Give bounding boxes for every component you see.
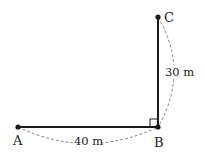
point-b — [155, 124, 160, 129]
label-a: A — [12, 133, 23, 148]
diagram-canvas: A B C 40 m 30 m — [0, 0, 205, 162]
point-c — [155, 14, 160, 19]
length-label-bc: 30 m — [165, 65, 194, 79]
point-a — [15, 124, 20, 129]
label-b: B — [154, 135, 164, 150]
length-label-ab: 40 m — [74, 134, 103, 148]
label-c: C — [164, 10, 174, 25]
